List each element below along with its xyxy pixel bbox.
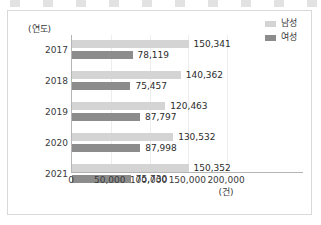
bar-value-label: 120,463 (170, 101, 207, 111)
bar-row: 78,119 (72, 51, 169, 59)
legend-item-male[interactable]: 남성 (265, 18, 297, 29)
bar-group: 2018140,36275,457 (72, 68, 303, 94)
y-axis-tick-label: 2018 (45, 76, 68, 86)
x-axis-tick-label: 200,000 (207, 175, 244, 185)
bar-female[interactable] (72, 82, 130, 90)
bar-value-label: 140,362 (186, 70, 223, 80)
bar-female[interactable] (72, 144, 140, 152)
bar-row: 75,457 (72, 82, 167, 90)
bar-male[interactable] (72, 164, 189, 172)
x-axis-unit: (건) (218, 185, 233, 198)
y-axis-tick-label: 2021 (45, 169, 68, 179)
legend-label-male: 남성 (281, 18, 297, 29)
bar-value-label: 87,797 (145, 112, 177, 122)
plot-area: 2017150,34178,1192018140,36275,457201912… (71, 35, 303, 173)
bar-groups: 2017150,34178,1192018140,36275,457201912… (72, 35, 303, 173)
top-edge-artifact (0, 0, 321, 7)
x-axis-tick-label: 100,000 (130, 175, 167, 185)
bar-row: 130,532 (72, 133, 215, 141)
bar-female[interactable] (72, 51, 133, 59)
bar-row: 150,352 (72, 164, 231, 172)
x-axis-tick-label: 150,000 (169, 175, 206, 185)
bar-female[interactable] (72, 113, 140, 121)
x-axis-tick-label: 0 (68, 175, 74, 185)
bar-row: 87,998 (72, 144, 177, 152)
bar-group: 2020130,53287,998 (72, 130, 303, 156)
bar-value-label: 87,998 (145, 143, 177, 153)
bar-male[interactable] (72, 71, 181, 79)
y-axis-caption: (연도) (28, 22, 51, 35)
bar-group: 2017150,34178,119 (72, 37, 303, 63)
bar-row: 150,341 (72, 40, 231, 48)
bar-value-label: 150,341 (194, 39, 231, 49)
bar-male[interactable] (72, 102, 165, 110)
bar-value-label: 75,457 (135, 81, 167, 91)
bar-row: 140,362 (72, 71, 223, 79)
bar-value-label: 78,119 (138, 50, 170, 60)
bar-value-label: 130,532 (178, 132, 215, 142)
x-axis-line (71, 172, 303, 173)
chart-figure: 남성 여성 (연도) 2017150,34178,1192018140,3627… (7, 10, 312, 215)
bar-male[interactable] (72, 40, 189, 48)
bar-row: 120,463 (72, 102, 208, 110)
x-axis-tick-label: 50,000 (94, 175, 126, 185)
bar-group: 2019120,46387,797 (72, 99, 303, 125)
y-axis-tick-label: 2017 (45, 45, 68, 55)
y-axis-tick-label: 2020 (45, 138, 68, 148)
x-axis-ticks: 050,000100,000150,000200,000 (71, 175, 303, 187)
y-axis-tick-label: 2019 (45, 107, 68, 117)
bar-row: 87,797 (72, 113, 177, 121)
legend-swatch-male (265, 21, 276, 27)
bar-male[interactable] (72, 133, 173, 141)
